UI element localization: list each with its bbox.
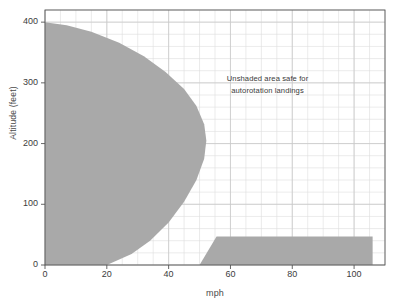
- x-tick-label: 60: [210, 270, 250, 279]
- x-tick-label: 100: [334, 270, 374, 279]
- unshaded-area-annotation: Unshaded area safe for autorotation land…: [198, 73, 338, 97]
- annotation-line-2: autorotation landings: [198, 85, 338, 97]
- x-tick-label: 40: [149, 270, 189, 279]
- x-axis-ticks: 020406080100: [0, 0, 410, 307]
- annotation-line-1: Unshaded area safe for: [198, 73, 338, 85]
- x-axis-title: mph: [45, 288, 385, 298]
- x-tick-label: 20: [87, 270, 127, 279]
- y-axis-title: Altitude (feet): [8, 48, 18, 178]
- height-velocity-chart: 0100200300400 020406080100 Altitude (fee…: [0, 0, 410, 307]
- x-tick-label: 0: [25, 270, 65, 279]
- x-tick-label: 80: [272, 270, 312, 279]
